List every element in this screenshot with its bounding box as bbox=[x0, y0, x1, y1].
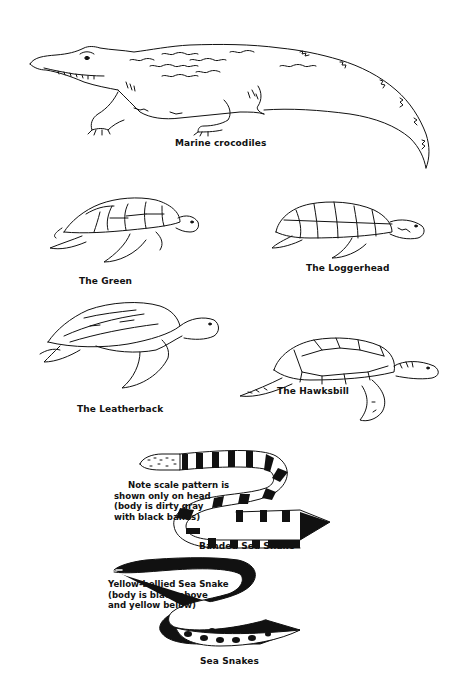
caption-green-turtle: The Green bbox=[79, 276, 132, 287]
illustration-canvas bbox=[0, 0, 464, 694]
caption-banded-sea-snake: Banded Sea Snake bbox=[199, 541, 295, 552]
caption-leatherback-turtle: The Leatherback bbox=[77, 404, 163, 415]
note-line: Note scale pattern is bbox=[114, 480, 229, 491]
note-line: Yellow-bellied Sea Snake bbox=[108, 579, 229, 590]
note-line: with black bands) bbox=[114, 512, 229, 523]
note-line: (body is black above bbox=[108, 590, 229, 601]
leatherback-turtle-illustration bbox=[40, 303, 219, 388]
caption-marine-crocodiles: Marine crocodiles bbox=[175, 138, 266, 149]
caption-sea-snakes: Sea Snakes bbox=[200, 656, 259, 667]
banded-sea-snake-note: Note scale pattern is shown only on head… bbox=[114, 480, 229, 522]
loggerhead-turtle-illustration bbox=[272, 202, 424, 258]
yellow-bellied-sea-snake-note: Yellow-bellied Sea Snake (body is black … bbox=[108, 579, 229, 611]
caption-loggerhead-turtle: The Loggerhead bbox=[306, 263, 390, 274]
hawksbill-turtle-illustration bbox=[240, 338, 438, 421]
note-line: and yellow below) bbox=[108, 600, 229, 611]
caption-hawksbill-turtle: The Hawksbill bbox=[277, 386, 349, 397]
note-line: shown only on head bbox=[114, 491, 229, 502]
crocodile-illustration bbox=[30, 44, 429, 168]
green-turtle-illustration bbox=[50, 198, 199, 262]
note-line: (body is dirty gray bbox=[114, 501, 229, 512]
